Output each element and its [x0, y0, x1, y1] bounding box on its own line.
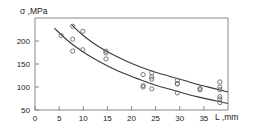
y-tick-label: 50 [21, 106, 30, 115]
axis-tick-marks [35, 41, 204, 110]
x-tick-label: 10 [79, 114, 88, 123]
data-point-marker [81, 29, 85, 33]
x-tick-label: 20 [127, 114, 136, 123]
stress-vs-length-scatter-plot: 50100150200 05101520253035 σ ,MPa L ,mm [0, 0, 255, 129]
fit-curve-upper [71, 24, 228, 92]
x-tick-label: 35 [199, 114, 208, 123]
data-point-marker [71, 49, 75, 53]
x-axis-title: L ,mm [215, 112, 238, 122]
x-tick-label: 25 [151, 114, 160, 123]
chart-figure: 50100150200 05101520253035 σ ,MPa L ,mm [0, 0, 255, 129]
y-tick-label: 100 [17, 83, 31, 92]
x-tick-label: 30 [175, 114, 184, 123]
data-point-marker [141, 72, 145, 76]
data-point-marker [104, 57, 108, 61]
data-point-marker [71, 37, 75, 41]
fit-curves [54, 24, 228, 103]
y-axis-title: σ ,MPa [20, 6, 48, 16]
x-tick-label: 5 [57, 114, 62, 123]
x-tick-label: 0 [33, 114, 38, 123]
y-tick-label: 200 [17, 37, 31, 46]
data-point-marker [150, 87, 154, 91]
fit-curve-lower [54, 28, 228, 103]
y-tick-label: 150 [17, 60, 31, 69]
plot-frame [35, 18, 228, 110]
x-tick-label: 15 [103, 114, 112, 123]
data-point-marker [218, 80, 222, 84]
x-axis-tick-labels: 05101520253035 [33, 114, 209, 123]
y-axis-tick-labels: 50100150200 [17, 37, 31, 115]
